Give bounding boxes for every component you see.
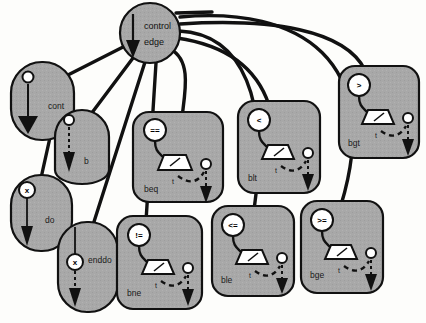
node-blt-label: blt bbox=[248, 173, 258, 183]
diagram-canvas: cont b x do x enddo bbox=[0, 0, 426, 323]
control-edge-label-line2: edge bbox=[144, 37, 164, 47]
node-cont-label: cont bbox=[48, 101, 65, 111]
node-bge-op: >= bbox=[317, 216, 327, 225]
node-beq-true-label: t bbox=[172, 178, 174, 185]
node-ble-op: <= bbox=[228, 221, 238, 230]
node-bne[interactable]: != t bne bbox=[117, 216, 202, 309]
node-bge-label: bge bbox=[310, 270, 324, 280]
edge-control-to-beq bbox=[170, 49, 185, 117]
node-blt-op: < bbox=[257, 116, 262, 125]
node-bne-op: != bbox=[135, 231, 143, 240]
node-bgt[interactable]: > t bgt bbox=[339, 66, 419, 158]
node-b[interactable]: b bbox=[55, 110, 109, 184]
edge-stub-top bbox=[176, 12, 212, 13]
node-enddo-op: x bbox=[73, 258, 78, 267]
node-beq-label: beq bbox=[144, 184, 158, 194]
edge-control-to-cont bbox=[62, 45, 127, 78]
node-enddo-label: enddo bbox=[88, 255, 112, 265]
node-bgt-op: > bbox=[357, 81, 362, 90]
node-do-op: x bbox=[25, 186, 30, 195]
node-ble-label: ble bbox=[221, 275, 233, 285]
node-bne-true-label: t bbox=[155, 282, 157, 289]
node-bge[interactable]: >= t bge bbox=[301, 201, 383, 293]
node-do-label: do bbox=[45, 215, 55, 225]
node-bge-true-label: t bbox=[338, 267, 340, 274]
node-bne-label: bne bbox=[127, 288, 141, 298]
node-ble-true-label: t bbox=[249, 272, 251, 279]
node-blt-true-label: t bbox=[275, 167, 277, 174]
edge-control-to-b bbox=[88, 58, 133, 118]
node-bgt-true-label: t bbox=[375, 132, 377, 139]
control-edge-label-line1: control bbox=[144, 21, 171, 31]
node-enddo[interactable]: x enddo bbox=[58, 222, 118, 312]
node-ble[interactable]: <= t ble bbox=[212, 206, 294, 296]
node-b-label: b bbox=[84, 156, 89, 166]
node-beq[interactable]: == t beq bbox=[133, 112, 223, 203]
node-bgt-label: bgt bbox=[348, 138, 360, 148]
diagram-svg: cont b x do x enddo bbox=[0, 0, 426, 323]
node-beq-op: == bbox=[150, 126, 160, 135]
node-control-edge[interactable]: control edge bbox=[120, 3, 180, 63]
node-blt[interactable]: < t blt bbox=[238, 101, 320, 193]
